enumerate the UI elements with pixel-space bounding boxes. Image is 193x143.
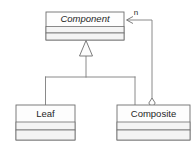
multiplicity-label: n xyxy=(134,8,138,17)
leaf-attributes-compartment xyxy=(16,122,75,130)
aggregation-line xyxy=(128,20,152,98)
class-box-component[interactable]: Component xyxy=(46,12,124,40)
composite-class-name: Composite xyxy=(131,108,176,119)
aggregation-relationship[interactable]: n xyxy=(127,8,156,108)
generalization-relationship[interactable] xyxy=(46,41,136,106)
component-attributes-compartment xyxy=(46,27,124,34)
class-box-leaf[interactable]: Leaf xyxy=(16,105,75,140)
leaf-class-name: Leaf xyxy=(36,108,55,119)
uml-class-diagram: n Component Leaf xyxy=(0,0,193,143)
class-box-composite[interactable]: Composite xyxy=(117,105,190,140)
diagram-canvas: n Component Leaf xyxy=(0,0,193,143)
leaf-operations-compartment xyxy=(16,130,75,140)
component-class-name: Component xyxy=(60,13,109,24)
composite-operations-compartment xyxy=(117,130,190,140)
generalization-triangle-icon xyxy=(80,41,93,57)
component-operations-compartment xyxy=(46,33,124,40)
composite-attributes-compartment xyxy=(117,122,190,130)
